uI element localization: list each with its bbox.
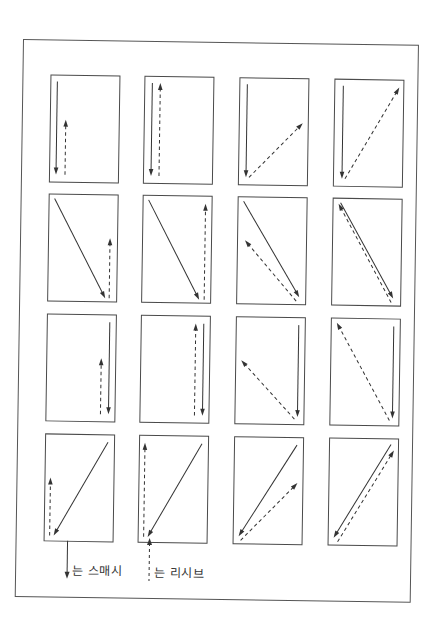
panel-r1c2 — [143, 76, 215, 185]
receive-arrow — [340, 208, 393, 302]
receive-arrow — [338, 454, 392, 542]
panel-r4c1 — [44, 433, 116, 542]
panel-grid — [24, 40, 418, 46]
smash-arrow — [241, 444, 297, 533]
smash-arrow — [242, 201, 298, 293]
smash-arrow — [339, 203, 392, 294]
legend-receive: 는 리시브 — [154, 563, 205, 581]
smash-arrow — [297, 325, 298, 412]
legend-receive-label: 는 리시브 — [154, 566, 205, 581]
trajectory-arrows-icon — [141, 195, 213, 304]
receive-arrow — [100, 363, 101, 414]
trajectory-arrows-icon — [138, 435, 210, 544]
receive-arrow — [65, 125, 66, 175]
trajectory-arrows-icon — [233, 436, 305, 545]
trajectory-arrows-icon — [333, 79, 405, 188]
trajectory-arrows-icon — [143, 76, 215, 185]
panel-r1c1 — [49, 74, 121, 183]
receive-arrow — [159, 88, 160, 176]
receive-arrow — [144, 448, 145, 537]
panel-r3c1 — [45, 313, 117, 422]
receive-arrow — [194, 329, 195, 416]
receive-arrow — [345, 91, 397, 179]
panel-r3c4 — [329, 318, 401, 427]
trajectory-arrows-icon — [236, 196, 308, 305]
trajectory-arrows-icon — [331, 198, 403, 307]
trajectory-arrows-icon — [139, 315, 211, 424]
receive-arrow — [50, 482, 51, 535]
smash-arrow — [342, 86, 343, 174]
diagram-page: 는 스매시 는 리시브 — [0, 0, 444, 638]
receive-arrow — [244, 364, 295, 419]
trajectory-arrows-icon — [234, 316, 306, 425]
receive-arrow — [338, 327, 391, 420]
trajectory-arrows-icon — [45, 313, 117, 422]
smash-arrow — [56, 82, 57, 170]
receive-arrow — [109, 243, 110, 298]
panel-r1c4 — [333, 79, 405, 188]
legend-smash: 는 스매시 — [72, 561, 123, 579]
panel-r4c3 — [233, 436, 305, 545]
smash-arrow — [203, 324, 204, 411]
smash-arrow — [53, 198, 104, 293]
smash-arrow — [151, 83, 152, 171]
panel-r1c3 — [238, 77, 310, 186]
panel-r2c2 — [141, 195, 213, 304]
trajectory-arrows-icon — [238, 77, 310, 186]
smash-arrow — [56, 442, 108, 532]
trajectory-arrows-icon — [49, 74, 121, 183]
trajectory-arrows-icon — [47, 193, 119, 302]
panel-r2c4 — [331, 198, 403, 307]
smash-arrow — [150, 443, 202, 533]
smash-arrow — [246, 84, 247, 172]
panel-r2c3 — [236, 196, 308, 305]
panel-r4c2 — [138, 435, 210, 544]
receive-arrow — [241, 486, 294, 541]
panel-r3c3 — [234, 316, 306, 425]
receive-arrow — [249, 126, 299, 178]
outer-frame: 는 스매시 는 리시브 — [15, 39, 419, 603]
legend-smash-label: 는 스매시 — [72, 564, 123, 579]
smash-arrow — [336, 444, 391, 534]
panel-r2c1 — [47, 193, 119, 302]
receive-arrow — [204, 209, 205, 300]
solid-arrow-icon — [64, 541, 73, 581]
panel-r3c2 — [139, 315, 211, 424]
smash-arrow — [109, 322, 110, 409]
trajectory-arrows-icon — [328, 438, 400, 547]
smash-arrow — [392, 327, 393, 414]
panel-r4c4 — [328, 438, 400, 547]
dashed-arrow-icon — [146, 537, 155, 581]
receive-arrow — [247, 244, 297, 301]
trajectory-arrows-icon — [329, 318, 401, 427]
smash-arrow — [147, 200, 198, 295]
trajectory-arrows-icon — [44, 433, 116, 542]
